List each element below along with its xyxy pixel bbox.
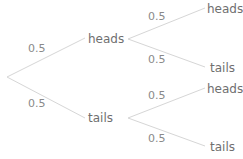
outcome-heads: heads <box>88 33 124 45</box>
prob-tails-heads: 0.5 <box>148 90 166 101</box>
prob-root-tails: 0.5 <box>28 98 46 109</box>
prob-heads-tails: 0.5 <box>148 54 166 65</box>
outcome-tails-tails: tails <box>210 141 235 153</box>
outcome-heads-tails: tails <box>210 62 235 74</box>
branch-tails-heads <box>128 88 205 118</box>
prob-heads-heads: 0.5 <box>148 11 166 22</box>
branch-heads-tails <box>128 39 205 67</box>
prob-tails-tails: 0.5 <box>148 133 166 144</box>
branch-tails-tails <box>128 118 205 146</box>
branch-root-tails <box>7 77 85 118</box>
tree-lines <box>0 0 243 159</box>
outcome-tails: tails <box>88 112 113 124</box>
branch-heads-heads <box>128 8 205 39</box>
outcome-heads-heads: heads <box>207 3 243 15</box>
branch-root-heads <box>7 38 85 77</box>
prob-root-heads: 0.5 <box>28 43 46 54</box>
outcome-tails-heads: heads <box>207 83 243 95</box>
